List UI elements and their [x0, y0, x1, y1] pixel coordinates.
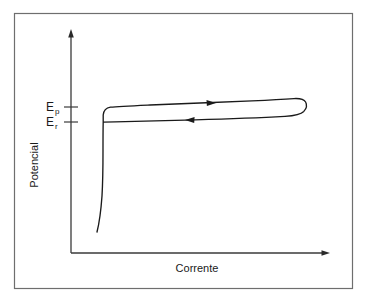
tick-label-ep-symbol: E: [46, 100, 54, 114]
tick-label-er-subscript: r: [55, 122, 58, 131]
polarization-curve-figure: E p E r Potencial Corrente: [0, 0, 368, 299]
tick-label-er-symbol: E: [46, 115, 54, 129]
y-axis-label: Potencial: [28, 142, 40, 187]
figure-container: E p E r Potencial Corrente: [0, 0, 368, 299]
tick-label-ep-subscript: p: [55, 107, 60, 116]
x-axis-label: Corrente: [176, 262, 219, 274]
figure-background: [0, 0, 368, 299]
